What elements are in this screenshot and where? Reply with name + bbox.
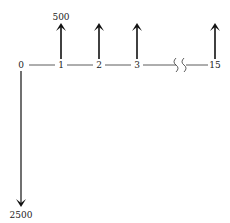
period-label-15: 15 [209,61,220,70]
period-label-2: 2 [96,61,102,70]
axis-break-icon [174,58,186,72]
diagram-graphics [0,0,230,223]
outflow-amount-label: 2500 [10,211,33,220]
inflow-arrows [61,27,215,59]
period-label-1: 1 [58,61,64,70]
period-label-0: 0 [18,61,24,70]
cash-flow-diagram: 0 1 2 3 15 500 2500 [0,0,230,223]
period-label-3: 3 [134,61,140,70]
inflow-amount-label: 500 [52,13,69,22]
